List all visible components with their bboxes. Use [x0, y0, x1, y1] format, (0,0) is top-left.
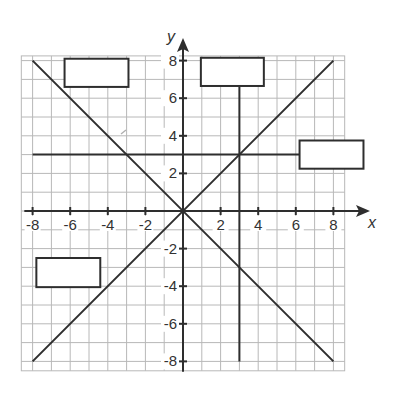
answer-box-bottom-left[interactable]	[36, 258, 100, 287]
y-tick-label: -4	[164, 277, 177, 294]
stray-pencil-mark	[121, 130, 126, 134]
x-tick-label: 2	[216, 216, 224, 233]
x-tick-label: -8	[26, 216, 39, 233]
coordinate-plane: -8-6-4-224688642-2-4-6-8xy	[0, 0, 396, 393]
x-tick-label: 6	[292, 216, 300, 233]
answer-box-right[interactable]	[300, 141, 364, 169]
y-tick-label: -6	[164, 315, 177, 332]
x-axis-label: x	[367, 214, 377, 231]
y-tick-label: 2	[169, 164, 177, 181]
y-tick-label: -2	[164, 240, 177, 257]
x-tick-label: -2	[139, 216, 152, 233]
x-tick-label: -4	[101, 216, 114, 233]
x-tick-label: -6	[64, 216, 77, 233]
y-tick-label: 8	[169, 52, 177, 69]
y-tick-label: 6	[169, 89, 177, 106]
y-tick-label: -8	[164, 352, 177, 369]
x-tick-label: 4	[254, 216, 262, 233]
y-axis-label: y	[166, 28, 176, 45]
y-tick-label: 4	[169, 127, 177, 144]
axes	[24, 38, 370, 372]
answer-box-top-left[interactable]	[65, 59, 129, 87]
answer-box-top-middle[interactable]	[201, 58, 264, 86]
x-tick-label: 8	[329, 216, 337, 233]
